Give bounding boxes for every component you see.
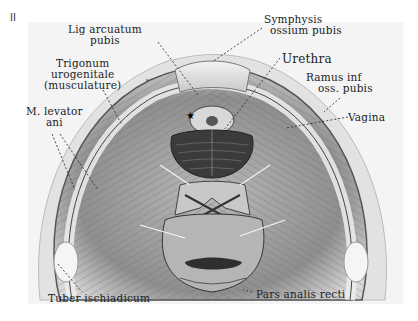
label-trigonum: Trigonum urogenitale (musculature): [44, 58, 121, 91]
anatomical-illustration: ★: [0, 0, 418, 321]
label-line: ani: [26, 117, 83, 128]
label-line: oss. pubis: [306, 83, 373, 94]
label-line: pubis: [68, 35, 142, 46]
label-urethra: Urethra: [282, 54, 332, 65]
label-line: ossium pubis: [264, 25, 342, 36]
label-lig-arcuatum: Lig arcuatum pubis: [68, 24, 142, 46]
label-vagina: Vagina: [348, 112, 385, 123]
label-levator-ani: M. levator ani: [26, 106, 83, 128]
label-symphysis: Symphysis ossium pubis: [264, 14, 342, 36]
label-line: (musculature): [44, 80, 121, 91]
label-pars-analis-recti: Pars analis recti: [256, 289, 345, 300]
label-ramus: Ramus inf oss. pubis: [306, 72, 373, 94]
label-tuber-ischiadicum: Tuber ischiadicum: [48, 293, 150, 304]
svg-text:★: ★: [186, 110, 195, 121]
